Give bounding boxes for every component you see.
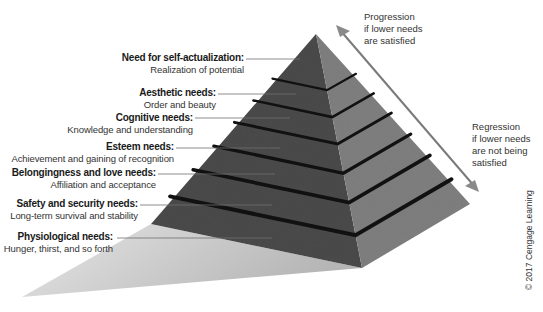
level-safety: Safety and security needs: Long-term sur…: [10, 198, 138, 222]
level-title: Physiological needs:: [4, 231, 113, 243]
regression-line-2: if lower needs: [472, 133, 531, 145]
level-physiological: Physiological needs: Hunger, thirst, and…: [4, 231, 113, 255]
level-title: Safety and security needs:: [10, 198, 138, 210]
arrow-up-head-icon: [336, 25, 350, 37]
level-description: Realization of potential: [122, 64, 244, 76]
level-cognitive: Cognitive needs: Knowledge and understan…: [67, 112, 193, 136]
level-description: Achievement and gaining of recognition: [11, 153, 174, 165]
level-description: Knowledge and understanding: [67, 124, 193, 136]
progression-line-1: Progression: [364, 11, 423, 23]
level-description: Order and beauty: [139, 99, 216, 111]
regression-line-3: are not being: [472, 145, 531, 157]
level-esteem: Esteem needs: Achievement and gaining of…: [11, 141, 174, 165]
regression-label: Regression if lower needs are not being …: [472, 121, 531, 169]
progression-line-2: if lower needs: [364, 23, 423, 35]
level-belongingness: Belongingness and love needs: Affiliatio…: [12, 167, 156, 191]
regression-line-1: Regression: [472, 121, 531, 133]
level-title: Belongingness and love needs:: [12, 167, 156, 179]
level-aesthetic: Aesthetic needs: Order and beauty: [139, 87, 216, 111]
progression-line-3: are satisfied: [364, 35, 423, 47]
level-title: Need for self-actualization:: [122, 52, 244, 64]
copyright-notice: © 2017 Cengage Learning: [524, 190, 534, 290]
level-self-actualization: Need for self-actualization: Realization…: [122, 52, 244, 76]
level-description: Long-term survival and stability: [10, 210, 138, 222]
level-description: Hunger, thirst, and so forth: [4, 243, 113, 255]
level-title: Esteem needs:: [11, 141, 174, 153]
level-description: Affiliation and acceptance: [12, 179, 156, 191]
level-title: Cognitive needs:: [67, 112, 193, 124]
regression-line-4: satisfied: [472, 157, 531, 169]
progression-label: Progression if lower needs are satisfied: [364, 11, 423, 47]
level-title: Aesthetic needs:: [139, 87, 216, 99]
maslow-pyramid-diagram: Need for self-actualization: Realization…: [0, 0, 543, 312]
arrow-down-head-icon: [465, 180, 479, 192]
